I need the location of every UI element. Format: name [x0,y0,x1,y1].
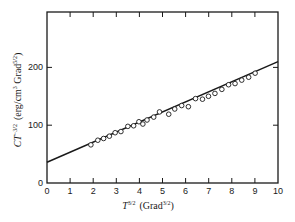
x-tick-label: 9 [252,186,257,196]
data-point [119,129,124,134]
data-point [253,71,258,76]
data-point [186,104,191,109]
y-tick-label: 100 [28,120,43,130]
data-point [233,81,238,86]
data-point [101,136,106,141]
data-point [113,130,118,135]
x-tick-label: 3 [114,186,119,196]
data-point [246,75,251,80]
data-point [145,118,150,123]
fit-line [47,62,278,163]
y-axis-label: CT−3/2(erg/cm3 Grad5/2) [12,53,24,148]
y-tick-label: 0 [38,178,43,188]
axis-ticks: 0123456789100100200 [28,12,283,196]
data-point [96,138,101,143]
data-point [89,143,94,148]
data-point [131,123,136,128]
data-point [206,94,211,99]
data-point [213,91,218,96]
fit-line-segment [47,62,278,163]
data-point [179,103,184,108]
data-point [239,78,244,83]
x-tick-label: 7 [206,186,211,196]
x-tick-label: 1 [68,186,73,196]
x-tick-label: 4 [137,186,142,196]
x-tick-label: 6 [183,186,188,196]
data-point [220,87,225,92]
data-point [166,112,171,117]
x-tick-label: 0 [44,186,49,196]
data-point [157,110,162,115]
data-point [200,97,205,102]
data-point [151,115,156,120]
data-point [141,122,146,127]
data-point [126,124,131,129]
data-point [193,96,198,101]
x-tick-label: 8 [229,186,234,196]
plot-frame [47,12,278,183]
x-tick-label: 10 [273,186,283,196]
x-axis-label: T3/2(Grad3/2) [122,200,174,212]
y-tick-label: 200 [28,62,43,72]
data-point [172,107,177,112]
plot-border [47,12,278,183]
data-point [226,82,231,87]
chart: 0123456789100100200 T3/2(Grad3/2) CT−3/2… [0,0,295,222]
data-point [107,134,112,139]
x-tick-label: 2 [91,186,96,196]
x-tick-label: 5 [160,186,165,196]
